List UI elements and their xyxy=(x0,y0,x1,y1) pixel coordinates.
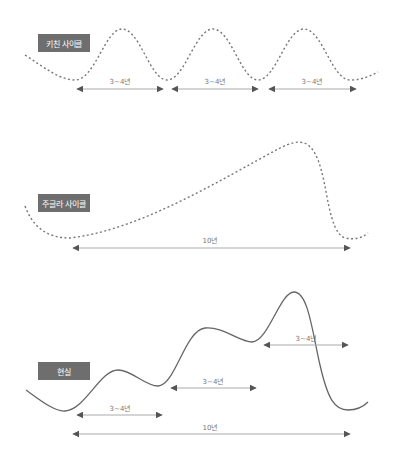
cycle-diagram xyxy=(0,0,394,464)
kitchin-duration-2: 3~4년 xyxy=(205,76,226,86)
reality-duration-total: 10년 xyxy=(203,422,218,432)
reality-duration-1: 3~4년 xyxy=(110,403,131,413)
kitchin-cycle-label: 키친 사이클 xyxy=(38,34,90,52)
reality-duration-2: 3~4년 xyxy=(203,376,224,386)
juglar-cycle-curve xyxy=(25,142,368,239)
kitchin-duration-1: 3~4년 xyxy=(110,76,131,86)
juglar-duration: 10년 xyxy=(203,235,218,245)
reality-label: 현실 xyxy=(38,362,90,380)
kitchin-duration-3: 3~4년 xyxy=(302,76,323,86)
reality-duration-3: 3~4년 xyxy=(296,333,317,343)
reality-curve xyxy=(26,292,368,411)
juglar-cycle-label: 주글라 사이클 xyxy=(38,194,90,212)
